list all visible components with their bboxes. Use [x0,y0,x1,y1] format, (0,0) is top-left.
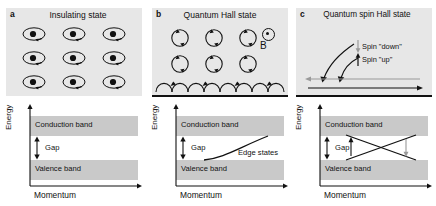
x-axis-label-a: Momentum [34,190,76,200]
panel-column-b: b Quantum Hall state [152,0,288,206]
spin-down-label: Spin "down" [362,42,402,51]
axes-a [6,104,142,204]
band-diagram-a: Energy Conduction band Valence band Gap [6,104,142,204]
spin-up-label: Spin "up" [362,55,392,64]
panel-column-a: a Insulating state [6,0,142,206]
magnetic-field-symbol: B [258,28,284,58]
x-axis-label-c: Momentum [324,190,366,200]
insulating-state-illustration [6,0,142,104]
figure-root: a Insulating state [0,0,436,206]
magnetic-field-label: B [260,40,267,51]
quantum-spin-hall-illustration [296,0,432,104]
edge-baseline-c [296,95,432,98]
spin-down-arrow-icon [356,40,361,53]
band-diagram-c: Energy Conduction band Valence band Gap [296,104,432,204]
band-diagram-b: Energy Conduction band Valence band Gap … [152,104,288,204]
panel-column-c: c Quantum spin Hall state Spi [296,0,432,206]
axes-b [152,104,288,204]
axes-c [296,104,432,204]
edge-baseline-b [152,95,288,98]
skipping-orbits [156,82,284,92]
x-axis-label-b: Momentum [180,190,222,200]
